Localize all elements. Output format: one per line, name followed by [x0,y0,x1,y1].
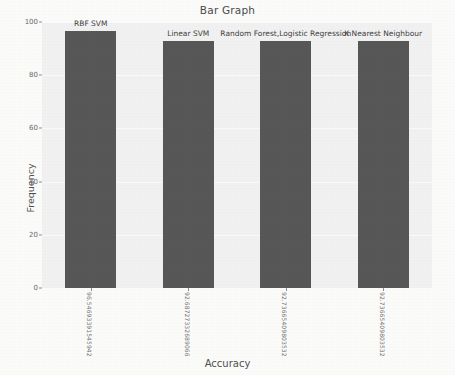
y-axis-tick-label: 20 [29,231,38,239]
x-axis-tick-mark [188,288,189,291]
y-axis-tick-mark [39,128,42,129]
x-axis-tick-mark [383,288,384,291]
bar [65,31,116,288]
plot-inner [42,22,432,288]
y-axis-label: Frequency [25,163,36,212]
x-axis-tick-label: 96.54693391545942 [86,292,93,357]
y-axis-tick-mark [39,22,42,23]
x-axis-tick-label: 92.68727332689066 [184,292,191,357]
y-axis-tick-label: 80 [29,71,38,79]
bar [358,41,409,288]
y-axis-tick-label: 40 [29,178,38,186]
y-axis-tick-mark [39,288,42,289]
chart-title: Bar Graph [0,4,455,16]
y-axis-tick-label: 0 [34,284,38,292]
y-axis-tick-mark [39,181,42,182]
bar-category-label: K Nearest Neighbour [344,29,422,38]
plot-area [42,22,432,288]
x-axis-tick-label: 92.73665409803532 [379,292,386,357]
y-axis-tick-label: 100 [25,18,38,26]
x-axis-tick-label: 92.73665409803532 [281,292,288,357]
y-axis-tick-mark [39,234,42,235]
y-axis-tick-label: 60 [29,124,38,132]
x-axis-label: Accuracy [0,358,455,369]
bar-category-label: Random Forest,Logistic Regression [220,29,351,38]
x-axis-tick-mark [286,288,287,291]
bar-chart-figure: Bar Graph Frequency Accuracy 02040608010… [0,0,455,375]
bar [260,41,311,288]
bar-category-label: Linear SVM [167,29,209,38]
bar [163,41,214,288]
x-axis-tick-mark [91,288,92,291]
y-axis-tick-mark [39,75,42,76]
bar-category-label: RBF SVM [74,19,107,28]
